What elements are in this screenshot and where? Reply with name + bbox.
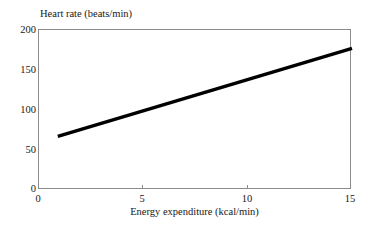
- series-line-segment: [58, 48, 352, 136]
- x-tick-mark-5: [142, 185, 143, 189]
- x-tick-mark-10: [247, 185, 248, 189]
- y-tick-label-150: 150: [6, 64, 36, 75]
- heart-rate-line-chart: Heart rate (beats/min) 200 150 100 50 0 …: [0, 0, 372, 229]
- x-axis-title: Energy expenditure (kcal/min): [38, 206, 351, 218]
- x-tick-label-10: 10: [232, 193, 262, 204]
- x-tick-mark-0: [38, 185, 39, 189]
- x-tick-mark-15: [350, 185, 351, 189]
- x-tick-label-5: 5: [127, 193, 157, 204]
- y-tick-label-200: 200: [6, 24, 36, 35]
- y-axis-title: Heart rate (beats/min): [40, 8, 132, 20]
- y-tick-label-50: 50: [6, 144, 36, 155]
- plot-area: [38, 29, 351, 189]
- x-tick-label-0: 0: [23, 193, 53, 204]
- x-tick-label-15: 15: [335, 193, 365, 204]
- data-series-line: [39, 30, 352, 190]
- y-tick-label-100: 100: [6, 104, 36, 115]
